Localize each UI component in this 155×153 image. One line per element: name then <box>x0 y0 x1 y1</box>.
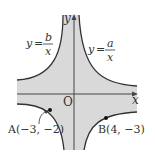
point-b-marker <box>104 116 108 120</box>
svg-text:y: y <box>25 37 33 50</box>
point-a-marker <box>48 108 52 112</box>
point-b-label: B(4, −3) <box>98 123 145 136</box>
origin-label: O <box>63 95 73 109</box>
svg-text:x: x <box>45 45 52 58</box>
svg-text:a: a <box>107 37 114 50</box>
svg-text:=: = <box>96 43 105 56</box>
point-a-label: A(−3, −2) <box>7 123 64 136</box>
svg-text:b: b <box>45 31 52 44</box>
x-axis-label: x <box>132 93 139 107</box>
label-a-over-x: y = a x <box>87 37 115 64</box>
svg-text:=: = <box>34 37 43 50</box>
svg-text:x: x <box>107 51 114 64</box>
hyperbola-diagram: x y O y = b x y = a x A(−3, −2) B(4, −3) <box>0 0 155 153</box>
y-axis-label: y <box>63 11 71 25</box>
label-b-over-x: y = b x <box>25 31 53 58</box>
svg-text:y: y <box>87 43 95 56</box>
